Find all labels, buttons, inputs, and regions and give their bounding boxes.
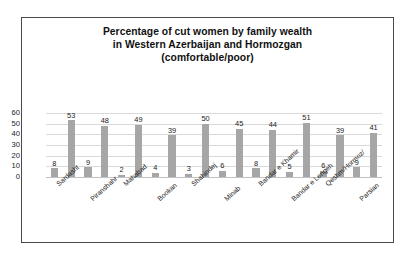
y-axis: 0102030405060 — [0, 113, 20, 177]
bar — [353, 167, 360, 177]
bar-value-label: 5 — [288, 163, 292, 170]
bar — [219, 171, 226, 177]
bar-value-label: 49 — [134, 116, 142, 123]
bar-value-label: 45 — [235, 120, 243, 127]
x-axis-labels: SardashtPiranshahrMahabadBookanShahindej… — [46, 180, 382, 252]
bar — [152, 173, 159, 177]
bar-value-label: 44 — [269, 121, 277, 128]
bar — [185, 174, 192, 177]
bar-value-label: 8 — [254, 160, 258, 167]
bar — [84, 167, 91, 177]
chart-title: Percentage of cut women by family wealth… — [22, 25, 393, 65]
y-tick-label-20: 20 — [12, 152, 20, 160]
bar-value-label: 39 — [168, 127, 176, 134]
bar-value-label: 39 — [336, 127, 344, 134]
bar-value-label: 50 — [201, 115, 209, 122]
bar-value-label: 8 — [52, 160, 56, 167]
bar-value-label: 51 — [302, 114, 310, 121]
y-tick-label-50: 50 — [12, 120, 20, 128]
bar — [236, 129, 243, 177]
y-tick-label-0: 0 — [16, 173, 20, 181]
y-tick-label-10: 10 — [12, 163, 20, 171]
bar-value-label: 6 — [220, 162, 224, 169]
y-tick-label-40: 40 — [12, 131, 20, 139]
bar — [370, 133, 377, 177]
bar — [118, 175, 125, 177]
x-tick-label: Minab — [223, 184, 242, 202]
x-tick-label: Piranshahr — [89, 175, 118, 203]
chart-title-line-3: (comfortable/poor) — [22, 51, 393, 64]
bar-value-label: 41 — [369, 124, 377, 131]
x-tick-label: Bookan — [156, 181, 178, 202]
y-tick-label-60: 60 — [12, 109, 20, 117]
bar-value-label: 4 — [153, 164, 157, 171]
bar — [101, 126, 108, 177]
bar — [168, 135, 175, 177]
chart-title-line-2: in Western Azerbaijan and Hormozgan — [22, 38, 393, 51]
bar-value-label: 9 — [86, 159, 90, 166]
chart-frame: Percentage of cut women by family wealth… — [21, 17, 394, 243]
bar — [286, 172, 293, 177]
y-tick-label-30: 30 — [12, 141, 20, 149]
bar — [51, 168, 58, 177]
bar — [252, 168, 259, 177]
chart-title-line-1: Percentage of cut women by family wealth — [22, 25, 393, 38]
bar — [303, 123, 310, 177]
bar-value-label: 53 — [67, 112, 75, 119]
x-tick-label: Parsian — [358, 181, 380, 202]
bar-value-label: 48 — [101, 117, 109, 124]
bar-value-label: 3 — [187, 165, 191, 172]
bar-value-label: 2 — [120, 166, 124, 173]
